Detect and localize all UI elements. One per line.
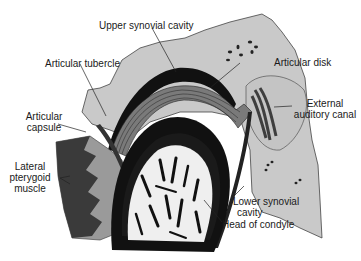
label-articular-disk: Articular disk: [274, 57, 331, 68]
tmj-diagram: Upper synovial cavity Articular tubercle…: [0, 0, 361, 261]
label-lower-synovial-cavity-line1: Lower synovial: [233, 196, 299, 207]
label-lateral-pterygoid-line3: muscle: [4, 183, 56, 194]
label-external-auditory-canal-line2: auditory canal: [292, 109, 358, 120]
label-articular-capsule-line2: capsule: [24, 122, 64, 133]
label-head-of-condyle: Head of condyle: [222, 219, 294, 230]
label-lateral-pterygoid-muscle: Lateral pterygoid muscle: [4, 161, 56, 194]
label-lower-synovial-cavity: Lower synovial cavity: [233, 196, 299, 218]
label-lateral-pterygoid-line2: pterygoid: [4, 172, 56, 183]
label-external-auditory-canal-line1: External: [292, 98, 358, 109]
label-lower-synovial-cavity-line2: cavity: [233, 207, 299, 218]
label-lateral-pterygoid-line1: Lateral: [4, 161, 56, 172]
label-articular-tubercle: Articular tubercle: [45, 58, 120, 69]
label-articular-capsule-line1: Articular: [24, 111, 64, 122]
label-upper-synovial-cavity: Upper synovial cavity: [99, 20, 193, 31]
label-articular-capsule: Articular capsule: [24, 111, 64, 133]
label-external-auditory-canal: External auditory canal: [292, 98, 358, 120]
